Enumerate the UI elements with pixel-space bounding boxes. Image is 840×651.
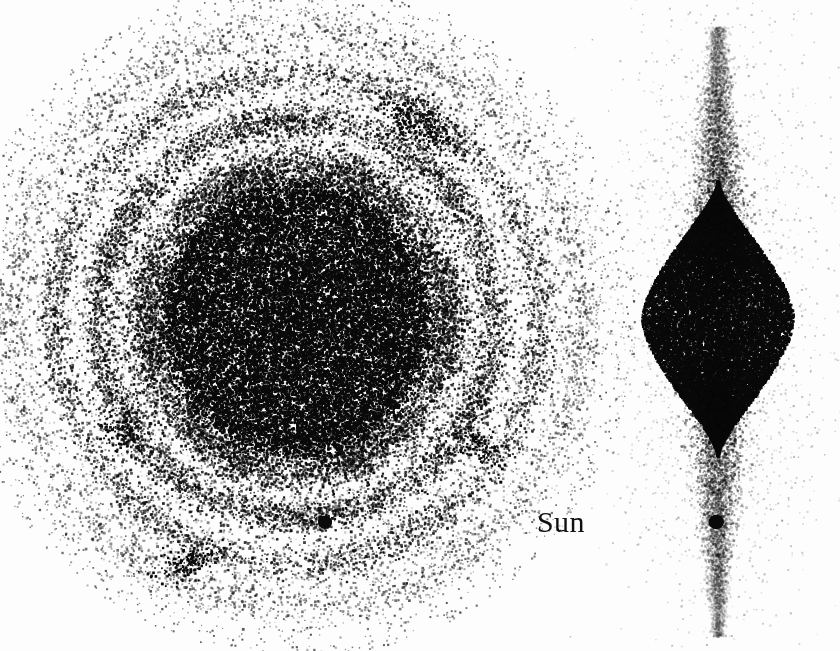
point-cloud-canvas (0, 0, 840, 651)
sun-marker-face-on (318, 516, 332, 529)
sun-marker-edge-on (709, 515, 724, 529)
sun-label: Sun (537, 507, 585, 537)
figure-root: Sun (0, 0, 840, 651)
